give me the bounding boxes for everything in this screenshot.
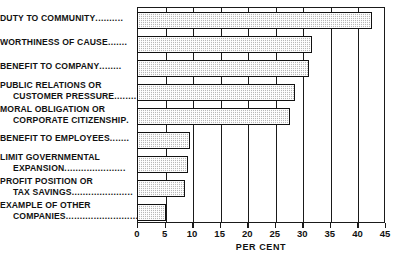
- category-label-line1: MORAL OBLIGATION OR: [0, 104, 105, 114]
- category-label-line1: BENEFIT TO EMPLOYEES: [0, 133, 110, 143]
- category-label-line2: COMPANIES..........................: [0, 211, 136, 222]
- plot-area: [137, 7, 385, 223]
- x-tick-label: 20: [242, 228, 253, 239]
- leader-dots: .......: [108, 37, 128, 47]
- bar: [137, 36, 312, 53]
- x-tick-label: 45: [380, 228, 391, 239]
- category-label: EXAMPLE OF OTHERCOMPANIES...............…: [0, 200, 137, 221]
- bar: [137, 204, 166, 221]
- category-label: PUBLIC RELATIONS ORCUSTOMER PRESSURE....…: [0, 80, 137, 101]
- leader-dots: .......: [110, 133, 130, 143]
- category-label-line1: WORTHINESS OF CAUSE: [0, 37, 108, 47]
- category-label-line2: EXPANSION......................: [0, 163, 136, 174]
- category-label: MORAL OBLIGATION ORCORPORATE CITIZENSHIP…: [0, 104, 137, 125]
- bar: [137, 132, 190, 149]
- category-label-column: DUTY TO COMMUNITY..........WORTHINESS OF…: [0, 7, 137, 223]
- leader-dots: ..........: [95, 13, 123, 23]
- leader-dots: ......................: [72, 187, 133, 197]
- leader-dots: ........: [114, 91, 136, 101]
- x-tick-label: 30: [297, 228, 308, 239]
- category-label-line2: CORPORATE CITIZENSHIP.: [0, 115, 136, 126]
- category-label: DUTY TO COMMUNITY..........: [0, 13, 137, 24]
- leader-dots: ........: [99, 61, 121, 71]
- category-label-line1: EXAMPLE OF OTHER: [0, 200, 91, 210]
- category-label-line1: PROFIT POSITION OR: [0, 176, 93, 186]
- bar-chart: DUTY TO COMMUNITY..........WORTHINESS OF…: [0, 0, 400, 261]
- bar: [137, 12, 372, 29]
- category-label-line1: PUBLIC RELATIONS OR: [0, 80, 102, 90]
- category-label-line1: DUTY TO COMMUNITY: [0, 13, 95, 23]
- leader-dots: ..........................: [66, 211, 138, 221]
- x-tick-label: 35: [325, 228, 336, 239]
- x-axis-title: PER CENT: [137, 242, 385, 252]
- bar: [137, 84, 295, 101]
- category-label-line1: BENEFIT TO COMPANY: [0, 61, 99, 71]
- leader-dots: ......................: [64, 163, 125, 173]
- x-tick-label: 25: [269, 228, 280, 239]
- category-label-line1: LIMIT GOVERNMENTAL: [0, 152, 100, 162]
- category-label-line2: CUSTOMER PRESSURE........: [0, 91, 136, 102]
- bar-series: [138, 8, 384, 222]
- x-tick-label: 15: [214, 228, 225, 239]
- bar: [137, 60, 309, 77]
- category-label: WORTHINESS OF CAUSE.......: [0, 37, 137, 48]
- x-tick-label: 5: [162, 228, 167, 239]
- category-label: PROFIT POSITION ORTAX SAVINGS...........…: [0, 176, 137, 197]
- bar: [137, 156, 188, 173]
- category-label-line2: TAX SAVINGS......................: [0, 187, 136, 198]
- category-label: LIMIT GOVERNMENTALEXPANSION.............…: [0, 152, 137, 173]
- bar: [137, 180, 185, 197]
- leader-dots: .: [126, 115, 129, 125]
- x-tick-label: 0: [134, 228, 139, 239]
- bar: [137, 108, 290, 125]
- category-label: BENEFIT TO EMPLOYEES.......: [0, 133, 137, 144]
- category-label: BENEFIT TO COMPANY........: [0, 61, 137, 72]
- x-tick-label: 40: [352, 228, 363, 239]
- x-axis: 051015202530354045: [137, 223, 385, 241]
- x-tick-label: 10: [187, 228, 198, 239]
